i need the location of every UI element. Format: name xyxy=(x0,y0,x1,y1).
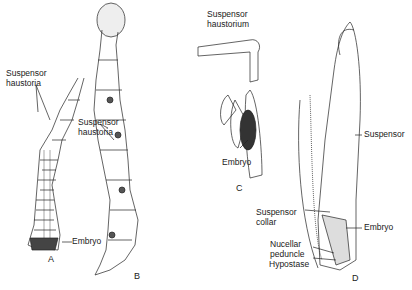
botanical-figure: Suspensor haustoria Embryo A Suspensor h… xyxy=(0,0,412,290)
panel-a-drawing xyxy=(28,78,84,250)
panel-label-c: C xyxy=(236,183,243,193)
panel-label-a: A xyxy=(48,254,54,264)
panel-b-drawing xyxy=(94,3,138,275)
panel-label-b: B xyxy=(134,271,140,281)
label-b-suspensor-haustoria: Suspensor haustoria xyxy=(78,118,119,137)
panel-d-drawing xyxy=(299,22,362,270)
label-c-suspensor-haustorium: Suspensor haustorium xyxy=(207,10,249,29)
label-d-nucellar-peduncle: Nucellar peduncle xyxy=(270,240,305,259)
label-d-embryo: Embryo xyxy=(364,223,393,233)
label-a-suspensor-haustoria: Suspensor haustoria xyxy=(6,69,47,88)
label-d-suspensor: Suspensor xyxy=(364,130,405,140)
figure-drawings xyxy=(0,0,412,290)
label-d-hypostase: Hypostase xyxy=(269,260,309,270)
label-d-suspensor-collar: Suspensor collar xyxy=(256,208,297,227)
label-c-embryo: Embryo xyxy=(222,158,251,168)
panel-label-d: D xyxy=(352,273,359,283)
label-a-embryo: Embryo xyxy=(72,237,101,247)
